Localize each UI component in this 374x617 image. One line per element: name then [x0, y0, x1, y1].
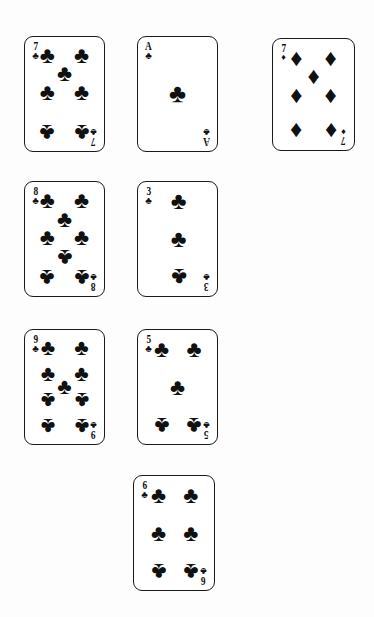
pip-clubs-icon: ♣	[41, 363, 55, 385]
pip-clubs-icon: ♣	[171, 265, 187, 289]
pip-clubs-icon: ♣	[151, 522, 166, 545]
pip-diamonds-icon: ♦	[324, 46, 336, 70]
pip-clubs-icon: ♣	[74, 121, 89, 144]
pip-clubs-icon: ♣	[74, 81, 89, 104]
pip-clubs-icon: ♣	[170, 376, 185, 399]
pip-diamonds-icon: ♦	[290, 46, 302, 70]
pip-clubs-icon: ♣	[154, 338, 169, 361]
pip-clubs-icon: ♣	[41, 337, 55, 359]
pip-clubs-icon: ♣	[40, 81, 55, 104]
pip-clubs-icon: ♣	[74, 415, 88, 437]
pip-clubs-icon: ♣	[169, 81, 186, 107]
pip-clubs-icon: ♣	[41, 389, 55, 411]
pip-clubs-icon: ♣	[74, 266, 89, 289]
pip-clubs-icon: ♣	[154, 414, 169, 437]
card-pip-field: ♣♣♣♣♣♣♣♣♣	[34, 337, 95, 437]
pip-clubs-icon: ♣	[171, 227, 187, 251]
card-pip-field: ♣	[147, 44, 208, 144]
pip-clubs-icon: ♣	[74, 189, 89, 212]
pip-diamonds-icon: ♦	[324, 83, 336, 107]
pip-clubs-icon: ♣	[41, 415, 55, 437]
card-table-surface: 7♣7♣♣♣♣♣♣♣♣A♣A♣♣7♦7♦♦♦♦♦♦♦♦8♣8♣♣♣♣♣♣♣♣♣3…	[0, 0, 374, 617]
card-ace-of-clubs[interactable]: A♣A♣♣	[137, 36, 218, 152]
pip-clubs-icon: ♣	[40, 121, 55, 144]
card-pip-field: ♣♣♣♣♣♣	[143, 483, 205, 583]
card-8-of-clubs[interactable]: 8♣8♣♣♣♣♣♣♣♣♣	[24, 181, 105, 297]
pip-clubs-icon: ♣	[171, 189, 187, 213]
pip-clubs-icon: ♣	[186, 414, 201, 437]
card-3-of-clubs[interactable]: 3♣3♣♣♣♣	[137, 181, 218, 297]
card-pip-field: ♣♣♣♣♣	[147, 337, 208, 437]
card-6-of-clubs[interactable]: 6♣6♣♣♣♣♣♣♣	[133, 475, 215, 591]
pip-clubs-icon: ♣	[74, 337, 88, 359]
card-9-of-clubs[interactable]: 9♣9♣♣♣♣♣♣♣♣♣♣	[24, 329, 105, 445]
card-pip-field: ♣♣♣	[147, 189, 208, 289]
pip-clubs-icon: ♣	[74, 44, 89, 67]
pip-clubs-icon: ♣	[183, 560, 198, 583]
pip-clubs-icon: ♣	[183, 522, 198, 545]
pip-clubs-icon: ♣	[151, 560, 166, 583]
pip-clubs-icon: ♣	[40, 44, 55, 67]
pip-clubs-icon: ♣	[74, 226, 89, 249]
pip-diamonds-icon: ♦	[290, 119, 302, 143]
pip-diamonds-icon: ♦	[324, 119, 336, 143]
pip-clubs-icon: ♣	[57, 376, 71, 398]
pip-clubs-icon: ♣	[151, 484, 166, 507]
card-7-of-diamonds[interactable]: 7♦7♦♦♦♦♦♦♦♦	[272, 38, 355, 151]
card-pip-field: ♦♦♦♦♦♦♦	[282, 46, 345, 143]
pip-clubs-icon: ♣	[186, 338, 201, 361]
pip-clubs-icon: ♣	[183, 484, 198, 507]
pip-clubs-icon: ♣	[40, 226, 55, 249]
pip-clubs-icon: ♣	[40, 189, 55, 212]
pip-clubs-icon: ♣	[57, 246, 72, 269]
card-7-of-clubs[interactable]: 7♣7♣♣♣♣♣♣♣♣	[24, 36, 105, 152]
card-pip-field: ♣♣♣♣♣♣♣	[34, 44, 95, 144]
pip-diamonds-icon: ♦	[307, 64, 319, 88]
card-5-of-clubs[interactable]: 5♣5♣♣♣♣♣♣	[137, 329, 218, 445]
card-pip-field: ♣♣♣♣♣♣♣♣	[34, 189, 95, 289]
pip-clubs-icon: ♣	[74, 363, 88, 385]
pip-diamonds-icon: ♦	[290, 83, 302, 107]
pip-clubs-icon: ♣	[57, 62, 72, 85]
pip-clubs-icon: ♣	[57, 208, 72, 231]
pip-clubs-icon: ♣	[74, 389, 88, 411]
pip-clubs-icon: ♣	[40, 266, 55, 289]
